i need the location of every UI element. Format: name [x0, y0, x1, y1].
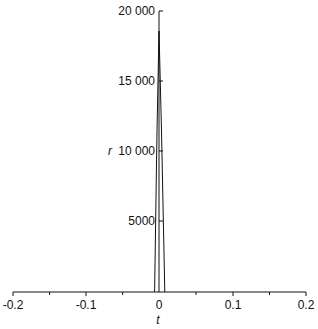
x-tick: 0.1	[225, 298, 242, 312]
y-axis-label: r	[108, 144, 113, 158]
x-axis-label: t	[156, 313, 160, 327]
x-tick: 0.2	[298, 298, 315, 312]
plot-area: 20 000 15 000 10 000 5000 -0.2 -0.1 0 0.…	[0, 0, 318, 329]
data-line	[155, 31, 165, 292]
x-tick: -0.2	[3, 298, 24, 312]
y-tick-10000: 10 000	[118, 144, 155, 158]
x-tick: 0	[156, 298, 163, 312]
y-tick-20000: 20 000	[118, 4, 155, 18]
x-tick: -0.1	[76, 298, 97, 312]
y-tick-5000: 5000	[128, 214, 155, 228]
chart: 20 000 15 000 10 000 5000 -0.2 -0.1 0 0.…	[0, 0, 318, 329]
y-tick-15000: 15 000	[118, 74, 155, 88]
